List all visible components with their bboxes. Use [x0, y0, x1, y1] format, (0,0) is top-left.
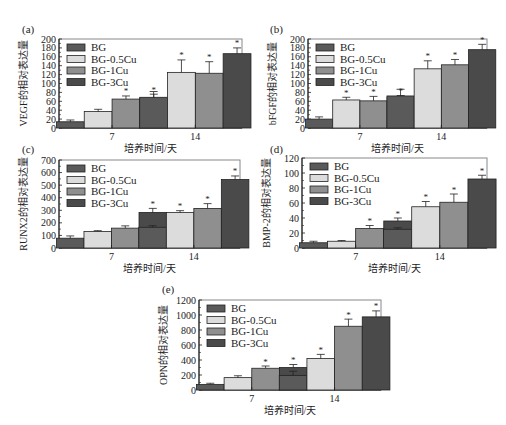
y-tick-label: 100: [284, 168, 299, 179]
y-tick-label: 200: [41, 217, 56, 228]
y-axis-label: BMP-2的相对表达量: [260, 158, 272, 247]
bar-bg-1cu-day14: [195, 73, 223, 128]
x-tick-label: 7: [110, 131, 115, 142]
legend-label: BG: [334, 160, 349, 172]
figure-canvas: (a)020406080100120140160180200VEGF的相对表达量…: [0, 0, 506, 425]
legend-label: BG-1Cu: [91, 185, 129, 197]
chart-panel-vegf: (a)020406080100120140160180200VEGF的相对表达量…: [17, 23, 251, 154]
legend-swatch-bg-1cu: [67, 67, 85, 74]
significance-star: *: [426, 51, 431, 61]
bar-bg-3cu-day14: [469, 50, 496, 128]
legend-swatch-bg-3cu: [207, 340, 225, 347]
x-axis-label: 培养时间/天: [264, 404, 317, 416]
bar-bg-day7: [196, 384, 224, 390]
legend-label: BG-3Cu: [334, 195, 372, 207]
y-axis-label: OPN的相对表达量: [157, 305, 169, 385]
legend-label: BG-3Cu: [340, 76, 378, 88]
bar-bg-05cu-day14: [412, 207, 440, 248]
bar-bg-05cu-day7: [333, 100, 360, 128]
x-axis-label: 培养时间/天: [371, 142, 424, 154]
legend-swatch-bg-1cu: [316, 67, 334, 74]
legend-label: BG-0.5Cu: [231, 314, 277, 326]
bar-bg-3cu-day14: [362, 317, 390, 390]
x-tick-label: 7: [353, 251, 358, 262]
legend-swatch-bg-3cu: [67, 79, 85, 86]
legend-swatch-bg-1cu: [67, 188, 85, 195]
y-tick-label: 40: [289, 213, 299, 224]
significance-star: *: [346, 310, 351, 320]
panel-label: (b): [270, 23, 283, 36]
legend-swatch-bg: [316, 44, 334, 51]
legend-label: BG-3Cu: [91, 197, 129, 209]
legend-label: BG-1Cu: [231, 325, 269, 337]
y-tick-label: 20: [289, 228, 299, 239]
bar-bg-day7: [56, 122, 84, 128]
legend-swatch-bg: [207, 305, 225, 312]
y-axis-label: VEGF的相对表达量: [17, 40, 29, 126]
legend-label: BG-1Cu: [340, 64, 378, 76]
bar-bg-05cu-day7: [84, 112, 112, 128]
legend-label: BG-3Cu: [231, 337, 269, 349]
x-tick-label: 14: [436, 131, 446, 142]
significance-star: *: [367, 216, 372, 226]
bar-bg-05cu-day14: [168, 72, 196, 128]
significance-star: *: [319, 345, 324, 355]
bar-bg-day7: [305, 119, 332, 128]
legend-label: BG: [340, 41, 355, 53]
legend-label: BG-0.5Cu: [91, 174, 137, 186]
significance-star: *: [480, 166, 485, 176]
y-tick-label: 700: [41, 155, 56, 166]
y-tick-label: 80: [289, 183, 299, 194]
significance-star: *: [263, 357, 268, 367]
significance-star: *: [205, 194, 210, 204]
legend-swatch-bg-1cu: [310, 186, 328, 193]
bar-bg-05cu-day14: [414, 69, 441, 128]
y-tick-label: 500: [41, 180, 56, 191]
bar-bg-3cu-day14: [221, 179, 249, 248]
y-tick-label: 120: [284, 153, 299, 164]
x-tick-label: 7: [109, 251, 114, 262]
bar-bg-05cu-day14: [307, 359, 335, 391]
bar-bg-05cu-day7: [224, 378, 252, 390]
x-tick-label: 7: [357, 131, 362, 142]
bar-bg-1cu-day14: [441, 65, 468, 128]
bar-bg-day14: [139, 227, 167, 248]
legend: BGBG-0.5CuBG-1CuBG-3Cu: [316, 41, 386, 88]
legend-swatch-bg-3cu: [310, 198, 328, 205]
bar-bg-day14: [279, 375, 307, 390]
bar-bg-1cu-day14: [194, 208, 222, 248]
x-tick-label: 14: [189, 251, 199, 262]
y-tick-label: 1200: [176, 295, 196, 306]
y-tick-label: 200: [181, 370, 196, 381]
bar-bg-3cu-day14: [223, 54, 251, 128]
y-tick-label: 300: [41, 205, 56, 216]
x-tick-label: 7: [249, 393, 254, 404]
panel-label: (d): [270, 143, 283, 156]
significance-star: *: [396, 209, 401, 219]
legend-swatch-bg-3cu: [67, 200, 85, 207]
bar-bg-05cu-day7: [328, 241, 356, 248]
bar-bg-day14: [387, 96, 414, 128]
legend-swatch-bg-05cu: [316, 56, 334, 63]
legend: BGBG-0.5CuBG-1CuBG-3Cu: [207, 302, 277, 349]
significance-star: *: [179, 50, 184, 60]
y-tick-label: 200: [41, 34, 56, 45]
legend-label: BG-0.5Cu: [91, 53, 137, 65]
y-tick-label: 0: [51, 243, 56, 254]
legend: BGBG-0.5CuBG-1CuBG-3Cu: [310, 160, 380, 207]
legend-swatch-bg-05cu: [310, 175, 328, 182]
significance-star: *: [178, 201, 183, 211]
y-tick-label: 100: [41, 230, 56, 241]
x-axis-label: 培养时间/天: [123, 262, 176, 274]
bar-bg-3cu-day14: [468, 179, 496, 248]
bar-bg-1cu-day7: [356, 229, 384, 249]
x-tick-label: 14: [435, 251, 445, 262]
significance-star: *: [207, 52, 212, 62]
bar-bg-1cu-day7: [360, 101, 387, 128]
significance-star: *: [344, 88, 349, 98]
bar-bg-day14: [140, 97, 168, 128]
panel-label: (c): [22, 143, 35, 156]
legend-label: BG-0.5Cu: [340, 53, 386, 65]
bar-bg-1cu-day14: [440, 202, 468, 248]
bar-bg-day7: [299, 243, 327, 248]
